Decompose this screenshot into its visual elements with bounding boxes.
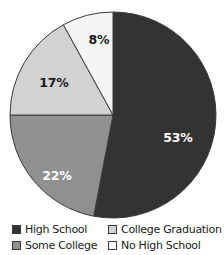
legend-item[interactable]: High School	[12, 221, 108, 237]
legend-item-label: High School	[25, 224, 87, 235]
legend-item[interactable]: No High School	[108, 237, 220, 253]
pie-slice-value-label: 22%	[42, 168, 72, 183]
legend-item[interactable]: College Graduation	[108, 221, 220, 237]
legend-item[interactable]: Some College	[12, 237, 108, 253]
legend-item-label: College Graduation	[121, 224, 222, 235]
legend-item-label: Some College	[25, 240, 97, 251]
legend-swatch-icon	[12, 241, 21, 250]
legend-swatch-icon	[12, 225, 21, 234]
pie-slice-value-label: 53%	[163, 130, 193, 145]
pie-slice-group	[10, 12, 216, 218]
pie-slice-value-label: 17%	[39, 75, 69, 90]
legend-item-label: No High School	[121, 240, 201, 251]
pie-chart-figure: 53%22%17%8% High SchoolCollege Graduatio…	[0, 0, 224, 255]
legend-swatch-icon	[108, 225, 117, 234]
pie-chart-plot: 53%22%17%8%	[0, 0, 224, 219]
legend-swatch-icon	[108, 241, 117, 250]
pie-chart-svg: 53%22%17%8%	[0, 0, 224, 219]
chart-legend: High SchoolCollege GraduationSome Colleg…	[12, 221, 220, 253]
pie-slice-value-label: 8%	[89, 32, 110, 47]
